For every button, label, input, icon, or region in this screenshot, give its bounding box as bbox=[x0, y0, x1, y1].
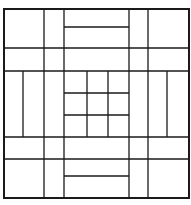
quilt-grid-diagram bbox=[0, 0, 191, 205]
grid-lines bbox=[4, 9, 189, 198]
diagram-canvas bbox=[0, 0, 191, 205]
outer-border bbox=[4, 9, 189, 198]
